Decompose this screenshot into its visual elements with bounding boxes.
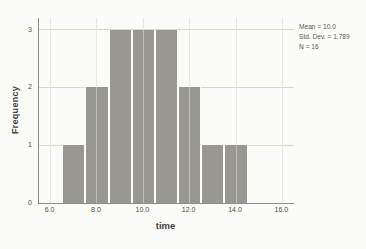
x-tick-label: 16.0	[266, 206, 296, 214]
stat-n: N = 16	[299, 42, 350, 52]
grid-line-v-overlay	[96, 18, 97, 203]
histogram-bar	[109, 30, 132, 203]
x-tick-label: 10.0	[127, 206, 157, 214]
grid-line-v-overlay	[189, 18, 190, 203]
x-tick-label: 12.0	[174, 206, 204, 214]
x-axis-title: time	[38, 220, 293, 231]
y-tick-label: 1	[2, 141, 32, 149]
grid-line-v-overlay	[143, 18, 144, 203]
stats-annotation: Mean = 10.0 Std. Dev. = 1.789 N = 16	[299, 22, 350, 52]
y-tick-label: 3	[2, 26, 32, 34]
grid-line-v-overlay	[50, 18, 51, 203]
y-tick-label: 2	[2, 83, 32, 91]
histogram-bar	[201, 145, 224, 203]
x-tick-label: 14.0	[220, 206, 250, 214]
histogram-figure: Frequency time Mean = 10.0 Std. Dev. = 1…	[0, 0, 366, 249]
stat-mean: Mean = 10.0	[299, 22, 350, 32]
histogram-bar	[155, 30, 178, 203]
histogram-bar	[62, 145, 85, 203]
grid-line-v-overlay	[282, 18, 283, 203]
y-tick-label: 0	[2, 199, 32, 207]
x-tick-label: 8.0	[81, 206, 111, 214]
stat-std-dev: Std. Dev. = 1.789	[299, 32, 350, 42]
plot-area	[38, 18, 294, 204]
grid-line-v-overlay	[236, 18, 237, 203]
y-axis-title: Frequency	[10, 86, 20, 134]
x-tick-label: 6.0	[35, 206, 65, 214]
